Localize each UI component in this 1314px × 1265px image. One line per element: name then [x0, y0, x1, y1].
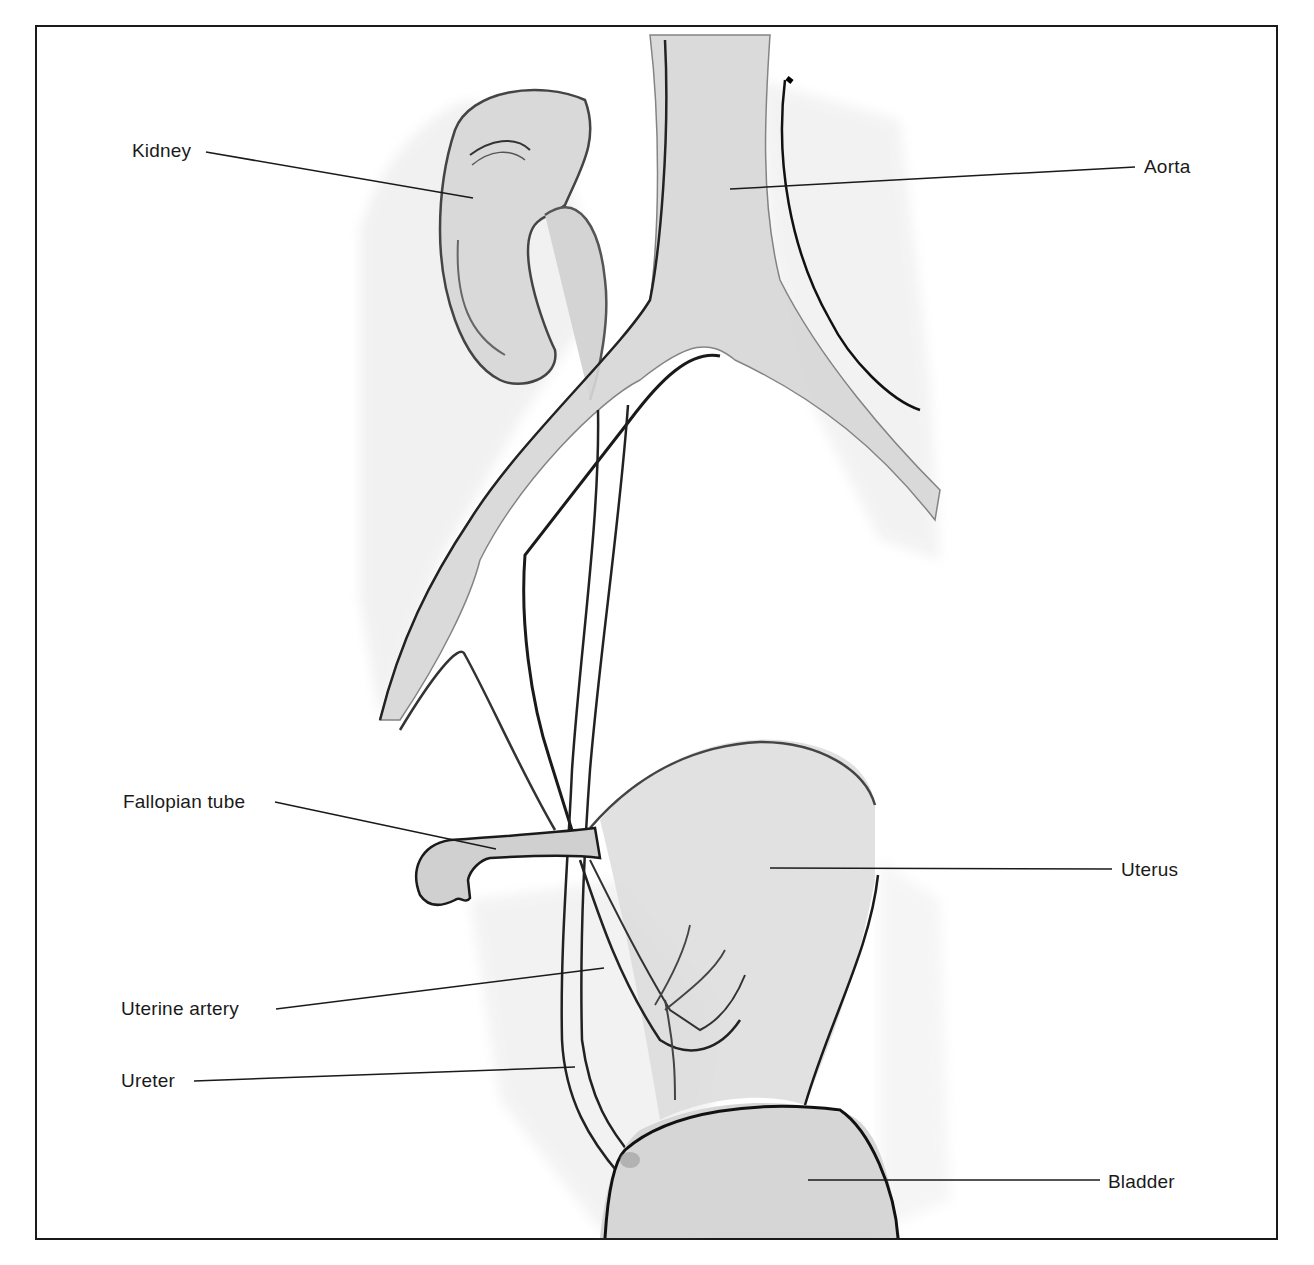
- label-uterine-artery: Uterine artery: [121, 999, 239, 1018]
- label-bladder: Bladder: [1108, 1172, 1175, 1191]
- label-uterus: Uterus: [1121, 860, 1178, 879]
- label-ureter: Ureter: [121, 1071, 175, 1090]
- label-aorta: Aorta: [1144, 157, 1190, 176]
- label-fallopian-tube: Fallopian tube: [123, 792, 245, 811]
- anatomy-illustration: [0, 0, 1314, 1265]
- label-kidney: Kidney: [132, 141, 191, 160]
